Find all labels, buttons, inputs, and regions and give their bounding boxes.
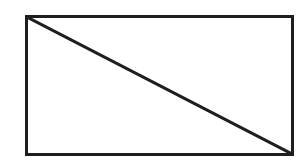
diagram-canvas: [0, 0, 305, 161]
rectangle-with-diagonal-figure: [0, 0, 305, 161]
diagonal-line: [27, 17, 292, 154]
